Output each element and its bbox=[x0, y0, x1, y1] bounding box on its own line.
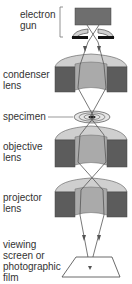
arrow-icon bbox=[83, 46, 87, 52]
gun-bracket bbox=[60, 7, 63, 37]
electron-gun-block bbox=[75, 8, 111, 25]
label-electron-gun: electron gun bbox=[20, 9, 56, 31]
arrow-icon bbox=[82, 235, 86, 241]
projector-lens bbox=[55, 178, 127, 217]
label-projector-lens: projector lens bbox=[3, 192, 42, 214]
label-viewing-screen: viewing screen or photographic film bbox=[3, 239, 61, 283]
label-condenser-lens: condenser lens bbox=[3, 69, 50, 91]
condenser-lens bbox=[55, 54, 127, 92]
objective-lens bbox=[55, 126, 127, 167]
label-objective-lens: objective lens bbox=[3, 141, 42, 163]
label-specimen: specimen bbox=[3, 111, 46, 122]
